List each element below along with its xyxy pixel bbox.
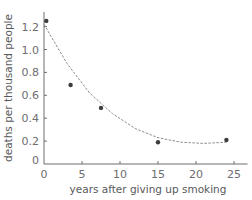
data-point (156, 140, 160, 144)
chart: 051015202500.20.40.60.81.01.2years after… (0, 0, 252, 200)
data-point (99, 106, 103, 110)
x-tick-label: 15 (151, 168, 165, 181)
y-tick-label: 1.2 (22, 21, 40, 34)
data-point (68, 83, 72, 87)
y-tick-label: 0.2 (22, 135, 40, 148)
y-tick-label: 1.0 (22, 44, 40, 57)
x-tick-label: 5 (79, 168, 86, 181)
y-tick-label: 0.4 (22, 112, 40, 125)
x-tick-label: 20 (189, 168, 203, 181)
y-tick-label: 0.8 (22, 66, 40, 79)
x-tick-label: 25 (227, 168, 241, 181)
y-tick-label: 0 (32, 154, 39, 167)
y-tick-label: 0.6 (22, 89, 40, 102)
y-axis-label: deaths per thousand people (2, 14, 14, 162)
x-axis-label: years after giving up smoking (70, 183, 227, 195)
x-tick-label: 10 (113, 168, 127, 181)
x-tick-label: 0 (41, 168, 48, 181)
data-point (44, 19, 48, 23)
data-point (224, 138, 228, 142)
